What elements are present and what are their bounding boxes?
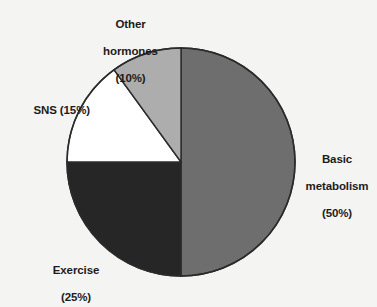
pie-label-exercise-percent: (25%) — [26, 291, 126, 305]
pie-label-basic-metabolism-line1: Basic — [299, 153, 375, 167]
pie-label-other-hormones-line2: hormones — [78, 45, 183, 59]
pie-label-other-hormones-line1: Other — [78, 18, 183, 32]
pie-label-basic-metabolism: Basic metabolism (50%) — [299, 139, 375, 234]
pie-label-sns: SNS (15%) — [6, 90, 90, 117]
pie-label-other-hormones-percent: (10%) — [78, 72, 183, 86]
pie-slice-basic-metabolism — [181, 48, 295, 276]
pie-label-basic-metabolism-percent: (50%) — [299, 207, 375, 221]
pie-label-exercise-line1: Exercise — [26, 264, 126, 278]
pie-label-sns-text: SNS (15%) — [33, 104, 90, 116]
pie-label-basic-metabolism-line2: metabolism — [299, 180, 375, 194]
pie-label-other-hormones: Other hormones (10%) — [78, 4, 183, 99]
pie-label-exercise: Exercise (25%) — [26, 250, 126, 307]
